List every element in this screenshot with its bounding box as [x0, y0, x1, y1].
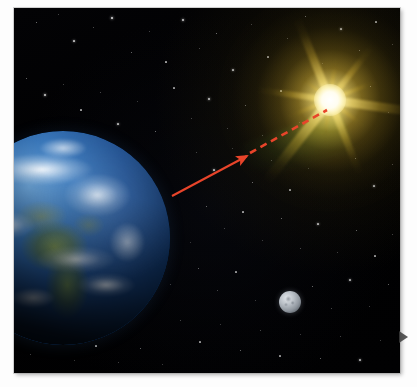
moon: [279, 291, 301, 313]
figure-title: Earth, Moon and Sun line-of-sight illust…: [0, 0, 1, 1]
space-photograph: [14, 8, 400, 373]
moon-craters: [279, 291, 301, 313]
figure-root: Earth, Moon and Sun line-of-sight illust…: [0, 0, 417, 387]
page-edge-triangle-icon[interactable]: [399, 331, 408, 343]
moon-label: Moon: [0, 0, 1, 1]
earth-label: Earth: [0, 0, 1, 1]
sun-label: Sun: [0, 0, 1, 1]
